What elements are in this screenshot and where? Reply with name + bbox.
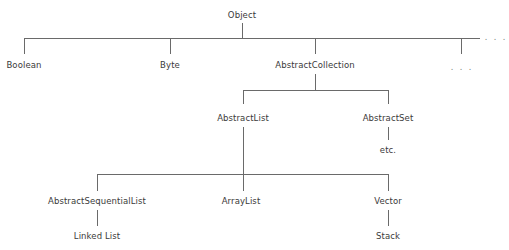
edge-level2-bar	[243, 90, 388, 91]
node-abstract-sequential-list: AbstractSequentialList	[48, 196, 146, 206]
edge-level3-bar	[97, 174, 388, 175]
node-byte: Byte	[160, 60, 180, 70]
edge-to-abstract-set	[388, 90, 389, 104]
node-abstract-list: AbstractList	[217, 113, 269, 123]
node-vector: Vector	[374, 196, 402, 206]
node-linked-list: Linked List	[74, 231, 120, 241]
node-stack: Stack	[376, 231, 400, 241]
edge-level1-bar	[24, 38, 480, 39]
edge-abstract-list-down	[243, 127, 244, 191]
edge-to-ellipsis-child	[461, 38, 462, 54]
edge-to-byte	[170, 38, 171, 54]
edge-object-down	[242, 23, 243, 38]
node-ellipsis-child: . . .	[451, 63, 474, 72]
edge-to-stack	[388, 210, 389, 226]
edge-to-abstract-list	[243, 90, 244, 104]
class-hierarchy-diagram: Object . . . Boolean Byte AbstractCollec…	[0, 0, 509, 250]
node-object: Object	[228, 10, 256, 20]
edge-to-linked-list	[97, 210, 98, 226]
edge-to-abstract-sequential-list	[97, 174, 98, 191]
edge-to-boolean	[24, 38, 25, 54]
node-abstract-collection: AbstractCollection	[275, 60, 355, 70]
edge-to-abstract-collection	[315, 38, 316, 54]
edge-abstract-collection-down	[315, 74, 316, 90]
node-array-list: ArrayList	[222, 196, 261, 206]
edge-to-etc	[388, 127, 389, 140]
node-boolean: Boolean	[6, 60, 41, 70]
node-etc: etc.	[380, 145, 396, 155]
edge-to-vector	[388, 174, 389, 191]
node-abstract-set: AbstractSet	[363, 113, 414, 123]
node-ellipsis-right: . . .	[485, 33, 508, 42]
